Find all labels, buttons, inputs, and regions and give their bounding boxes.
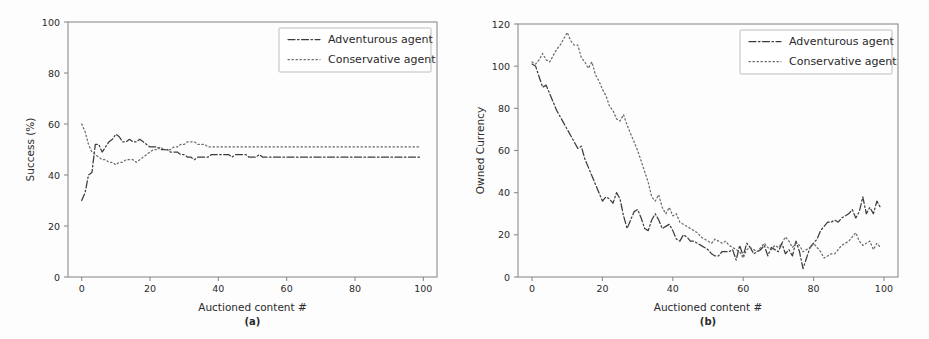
x-tick-label-20: 20 [144, 283, 156, 294]
y-tick-label-60: 60 [498, 145, 510, 156]
x-tick-label-80: 80 [808, 283, 820, 294]
y-tick-label-100: 100 [492, 61, 510, 72]
x-tick-label-40: 40 [212, 283, 224, 294]
x-tick-label-40: 40 [667, 283, 679, 294]
x-tick-label-60: 60 [281, 283, 293, 294]
x-tick-label-80: 80 [349, 283, 361, 294]
panel-caption: (a) [245, 316, 261, 327]
chart-panel-b: 020406080100020406080100120Auctioned con… [465, 0, 929, 339]
x-tick-label-0: 0 [529, 283, 535, 294]
series-line-adventurous [82, 134, 420, 200]
y-tick-label-60: 60 [48, 119, 60, 130]
panel-caption: (b) [700, 316, 716, 327]
y-tick-label-40: 40 [48, 170, 60, 181]
x-axis-title: Auctioned content # [198, 301, 307, 313]
y-axis-title: Success (%) [24, 118, 36, 182]
y-tick-label-100: 100 [42, 17, 60, 28]
y-tick-label-80: 80 [48, 68, 60, 79]
legend-label-conservative: Conservative agent [328, 53, 436, 66]
y-tick-label-80: 80 [498, 103, 510, 114]
legend-label-adventurous: Adventurous agent [789, 35, 895, 48]
chart-a-svg: 020406080100020406080100Auctioned conten… [0, 0, 465, 339]
series-line-conservative [82, 124, 420, 165]
x-axis-title: Auctioned content # [654, 301, 763, 313]
x-tick-label-0: 0 [79, 283, 85, 294]
x-tick-label-100: 100 [414, 283, 432, 294]
x-tick-label-100: 100 [875, 283, 893, 294]
y-tick-label-0: 0 [504, 272, 510, 283]
y-axis-title: Owned Currency [474, 107, 486, 194]
y-tick-label-40: 40 [498, 187, 510, 198]
y-tick-label-0: 0 [54, 272, 60, 283]
y-tick-label-20: 20 [48, 221, 60, 232]
x-tick-label-60: 60 [737, 283, 749, 294]
y-tick-label-120: 120 [492, 19, 510, 30]
x-tick-label-20: 20 [596, 283, 608, 294]
legend-label-adventurous: Adventurous agent [328, 33, 434, 46]
chart-panel-a: 020406080100020406080100Auctioned conten… [0, 0, 465, 339]
legend-label-conservative: Conservative agent [789, 55, 897, 68]
chart-b-svg: 020406080100020406080100120Auctioned con… [465, 0, 929, 339]
figure-container: 020406080100020406080100Auctioned conten… [0, 0, 929, 339]
y-tick-label-20: 20 [498, 229, 510, 240]
series-line-adventurous [532, 64, 880, 269]
